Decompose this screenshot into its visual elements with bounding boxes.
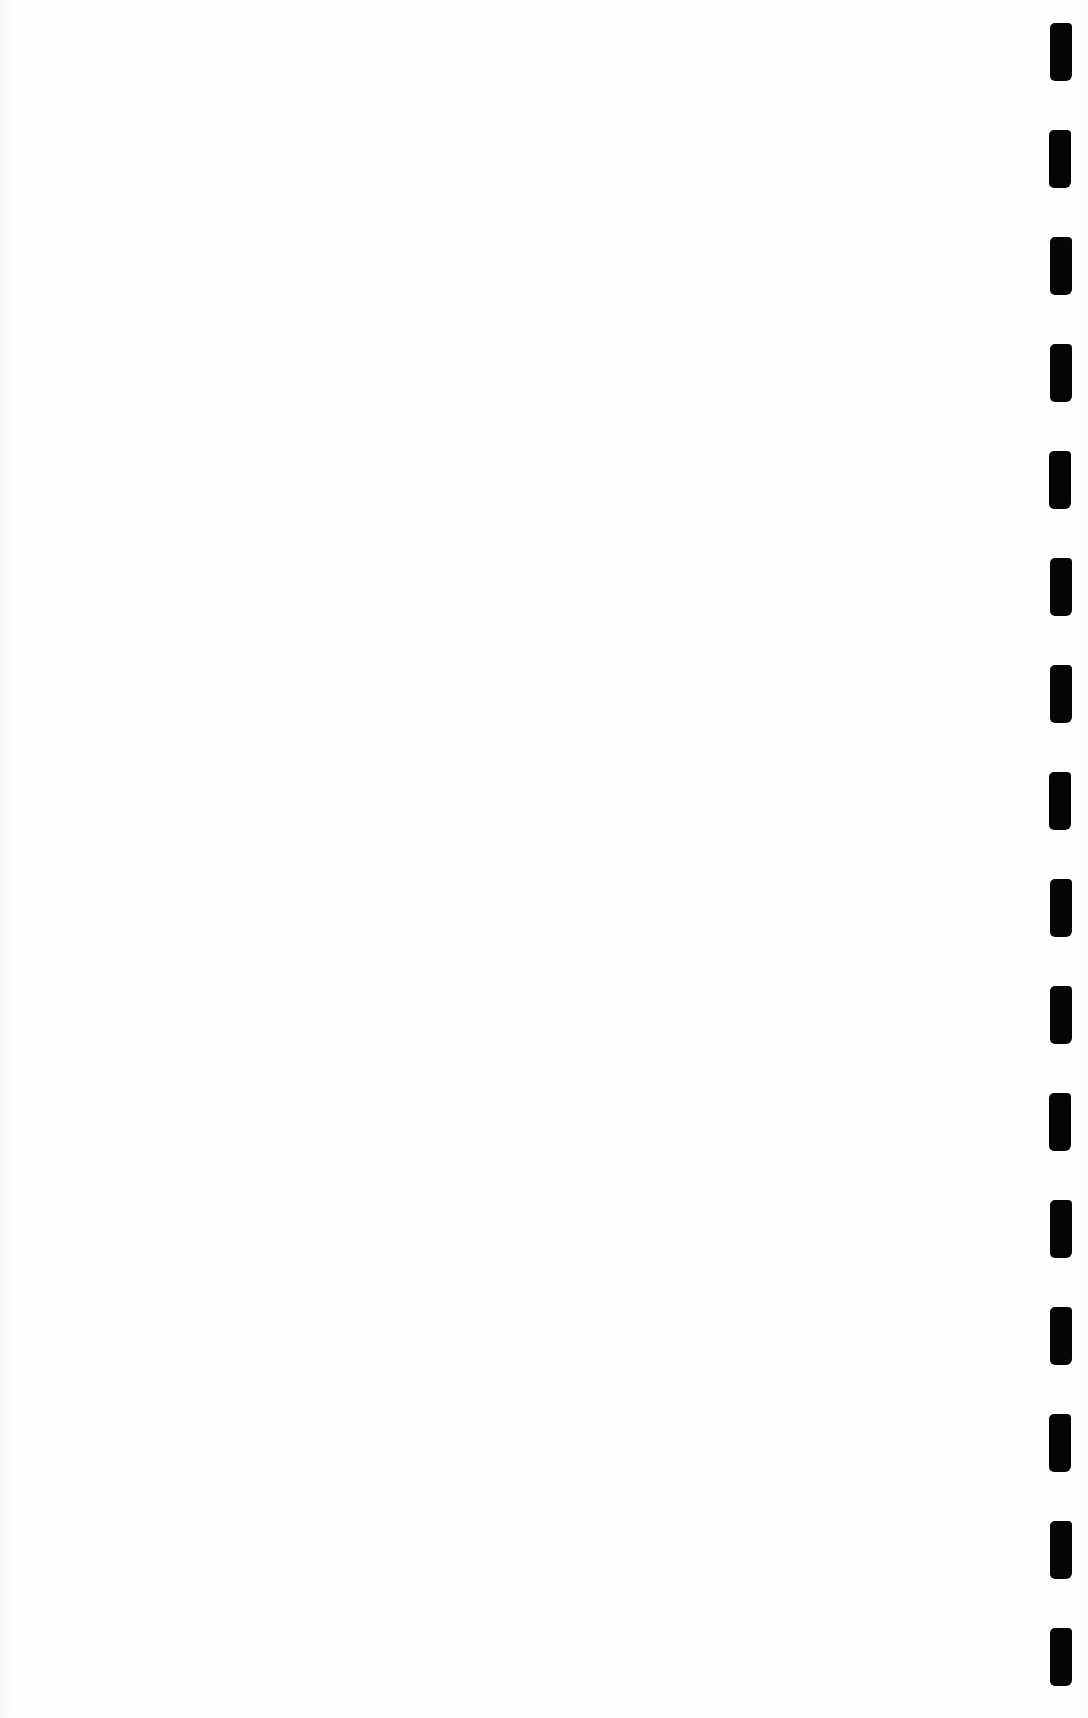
binding-hole-mark bbox=[1050, 344, 1072, 402]
blank-document-page bbox=[0, 0, 1088, 1718]
binding-hole-mark bbox=[1049, 130, 1071, 188]
binding-strip bbox=[1040, 0, 1088, 1718]
binding-hole-mark bbox=[1050, 879, 1072, 937]
binding-hole-mark bbox=[1050, 1200, 1072, 1258]
binding-hole-mark bbox=[1049, 772, 1071, 830]
binding-hole-mark bbox=[1049, 451, 1071, 509]
binding-hole-mark bbox=[1050, 1628, 1072, 1686]
binding-hole-mark bbox=[1049, 1414, 1071, 1472]
binding-hole-mark bbox=[1050, 986, 1072, 1044]
binding-hole-mark bbox=[1050, 1521, 1072, 1579]
binding-hole-mark bbox=[1050, 237, 1072, 295]
binding-hole-mark bbox=[1050, 558, 1072, 616]
binding-hole-mark bbox=[1050, 1307, 1072, 1365]
binding-hole-mark bbox=[1049, 1093, 1071, 1151]
binding-hole-mark bbox=[1050, 665, 1072, 723]
binding-hole-mark bbox=[1050, 23, 1072, 81]
